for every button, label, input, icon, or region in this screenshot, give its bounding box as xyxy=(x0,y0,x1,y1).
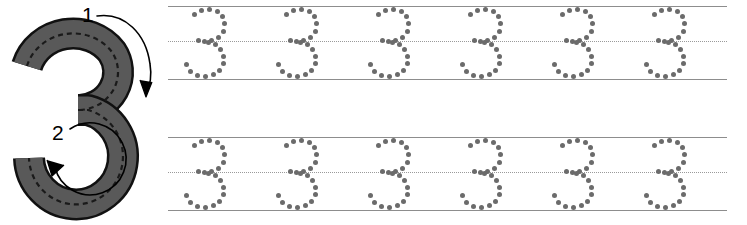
trace-dot xyxy=(648,200,653,205)
trace-dot xyxy=(589,160,594,165)
trace-dot xyxy=(581,173,586,178)
trace-dot xyxy=(671,203,676,208)
trace-dot xyxy=(656,169,661,174)
trace-dot xyxy=(588,145,593,150)
trace-dot xyxy=(666,171,671,176)
trace-dot xyxy=(563,204,568,209)
trace-dot xyxy=(464,200,469,205)
trace-dot xyxy=(590,152,595,157)
trace-dot xyxy=(498,152,503,157)
trace-dot xyxy=(276,193,281,198)
base-rule-line xyxy=(168,210,727,211)
trace-dot xyxy=(195,204,200,209)
trace-dot xyxy=(575,138,580,143)
trace-dot xyxy=(574,171,579,176)
trace-dot xyxy=(221,160,226,165)
trace-dot xyxy=(585,199,590,204)
trace-glyph-3[interactable] xyxy=(548,137,598,210)
trace-dot xyxy=(655,204,660,209)
trace-dot xyxy=(312,145,317,150)
trace-dot xyxy=(288,169,293,174)
trace-dot xyxy=(401,199,406,204)
trace-dot xyxy=(399,140,404,145)
trace-dot xyxy=(303,203,308,208)
trace-dot xyxy=(192,143,197,148)
trace-glyph-3[interactable] xyxy=(640,137,690,210)
trace-dot xyxy=(483,138,488,143)
trace-dot xyxy=(564,169,569,174)
trace-dot xyxy=(372,200,377,205)
trace-dot xyxy=(196,169,201,174)
trace-dot xyxy=(681,185,686,190)
trace-dot xyxy=(211,203,216,208)
trace-dot xyxy=(308,166,313,171)
trace-dot xyxy=(287,204,292,209)
tracing-worksheet: 1 2 xyxy=(0,0,747,225)
trace-dot xyxy=(678,178,683,183)
trace-dot xyxy=(494,178,499,183)
trace-dot xyxy=(280,200,285,205)
trace-dot xyxy=(676,166,681,171)
trace-dot xyxy=(314,152,319,157)
trace-dot xyxy=(675,140,680,145)
trace-dot xyxy=(291,139,296,144)
trace-dot xyxy=(589,185,594,190)
trace-glyph-3[interactable] xyxy=(180,137,230,210)
trace-dot xyxy=(644,193,649,198)
trace-dot xyxy=(571,205,576,210)
trace-dot xyxy=(496,145,501,150)
trace-dot xyxy=(188,200,193,205)
trace-glyph-3[interactable] xyxy=(272,137,322,210)
trace-dot xyxy=(217,199,222,204)
trace-dot xyxy=(220,145,225,150)
trace-dot xyxy=(395,203,400,208)
trace-dot xyxy=(380,169,385,174)
trace-dot xyxy=(313,185,318,190)
trace-dot xyxy=(667,138,672,143)
trace-dot xyxy=(482,171,487,176)
trace-dot xyxy=(583,140,588,145)
trace-dot xyxy=(305,173,310,178)
practice-row xyxy=(168,0,727,225)
trace-dot xyxy=(493,199,498,204)
trace-dot xyxy=(560,143,565,148)
trace-dot xyxy=(387,205,392,210)
trace-dot xyxy=(215,140,220,145)
trace-dot xyxy=(391,138,396,143)
trace-glyph-3[interactable] xyxy=(456,137,506,210)
trace-dot xyxy=(487,203,492,208)
trace-dot xyxy=(397,173,402,178)
trace-dot xyxy=(681,160,686,165)
trace-dot xyxy=(491,140,496,145)
trace-dot xyxy=(659,139,664,144)
trace-dot xyxy=(199,139,204,144)
trace-dot xyxy=(404,145,409,150)
trace-dot xyxy=(299,138,304,143)
trace-dot xyxy=(379,204,384,209)
trace-dot xyxy=(313,192,318,197)
trace-dot xyxy=(216,166,221,171)
trace-dot xyxy=(677,199,682,204)
trace-dot xyxy=(479,205,484,210)
trace-dot xyxy=(221,192,226,197)
trace-dot xyxy=(405,160,410,165)
trace-dot xyxy=(492,166,497,171)
trace-dot xyxy=(206,171,211,176)
trace-dot xyxy=(402,178,407,183)
trace-dot xyxy=(405,185,410,190)
trace-dot xyxy=(681,192,686,197)
trace-dot xyxy=(298,171,303,176)
trace-dot xyxy=(589,192,594,197)
trace-dot xyxy=(556,200,561,205)
trace-dot xyxy=(489,173,494,178)
trace-dot xyxy=(460,193,465,198)
trace-dot xyxy=(475,139,480,144)
trace-dot xyxy=(295,205,300,210)
practice-area xyxy=(0,0,747,225)
trace-dot xyxy=(497,185,502,190)
trace-dot xyxy=(586,178,591,183)
trace-dot xyxy=(567,139,572,144)
trace-dot xyxy=(497,160,502,165)
trace-glyph-3[interactable] xyxy=(364,137,414,210)
trace-dot xyxy=(472,169,477,174)
